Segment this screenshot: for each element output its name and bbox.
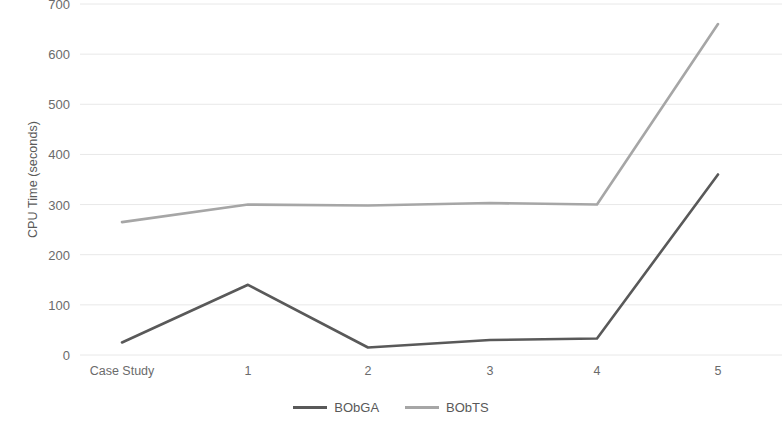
series-lines [80,0,782,356]
series-line-bobga [122,174,718,347]
x-tick-label: 3 [487,364,494,378]
legend-label: BObGA [334,400,379,415]
legend-entry-bobts[interactable]: BObTS [405,400,489,415]
x-tick-label: Case Study [90,364,155,378]
line-chart: CPU Time (seconds) 010020030040050060070… [0,0,782,429]
chart-legend: BObGABObTS [0,396,782,418]
y-tick-label: 300 [10,197,70,212]
legend-label: BObTS [446,400,489,415]
x-tick-label: 2 [365,364,372,378]
legend-line-swatch [405,406,439,409]
y-tick-label: 400 [10,147,70,162]
legend-entry-bobga[interactable]: BObGA [293,400,379,415]
y-tick-label: 700 [10,0,70,12]
x-axis-tick-labels: Case Study12345 [0,358,782,382]
legend-line-swatch [293,406,327,409]
x-tick-label: 4 [594,364,601,378]
y-tick-label: 500 [10,97,70,112]
x-tick-label: 1 [245,364,252,378]
y-tick-label: 200 [10,247,70,262]
plot-area [80,0,782,356]
y-tick-label: 100 [10,297,70,312]
x-tick-label: 5 [715,364,722,378]
y-tick-label: 600 [10,47,70,62]
series-line-bobts [122,24,718,222]
